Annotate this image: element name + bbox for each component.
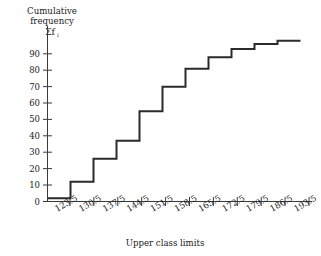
- y-tick-label-50: 50: [29, 114, 40, 124]
- cumulative-frequency-step-line: [48, 41, 301, 198]
- y-axis-title-symbol-subscript: i: [57, 32, 59, 38]
- y-axis-title-symbol: Σf: [45, 27, 55, 37]
- y-axis-title-line-1: Cumulative: [27, 6, 77, 16]
- y-tick-label-10: 10: [29, 180, 40, 190]
- x-tick-label-186-5: 186.5: [268, 193, 294, 214]
- x-tick-label-172-5: 172.5: [220, 193, 246, 214]
- y-tick-label-90: 90: [29, 49, 40, 59]
- y-tick-label-60: 60: [29, 98, 40, 108]
- y-tick-label-20: 20: [29, 164, 40, 174]
- chart-svg: Cumulative frequency Σf i 0 10 20 30 40 …: [0, 0, 321, 256]
- y-tick-label-70: 70: [29, 82, 40, 92]
- y-axis-title-group: Cumulative frequency Σf i: [27, 6, 77, 38]
- y-tick-label-0: 0: [35, 197, 40, 207]
- x-axis-title: Upper class limits: [126, 238, 205, 248]
- x-tick-label-165-5: 165.5: [196, 193, 222, 214]
- x-tick-label-179-5: 179.5: [244, 193, 270, 214]
- y-tick-label-40: 40: [29, 131, 40, 141]
- x-tick-label-123-5: 123.5: [53, 193, 79, 214]
- x-tick-label-130-5: 130.5: [77, 193, 103, 214]
- x-tick-label-137-5: 137.5: [101, 193, 127, 214]
- x-tick-label-151-5: 151.5: [149, 193, 175, 214]
- y-tick-label-30: 30: [29, 147, 40, 157]
- y-tick-label-80: 80: [29, 65, 40, 75]
- cumulative-frequency-chart: Cumulative frequency Σf i 0 10 20 30 40 …: [0, 0, 321, 256]
- x-tick-label-193-5: 193.5: [292, 193, 318, 214]
- x-axis-tick-labels: 123.5 130.5 137.5 144.5 151.5 158.5 165.…: [53, 193, 318, 214]
- y-axis-ticks: 0 10 20 30 40 50 60 70 80 90: [29, 49, 52, 207]
- x-tick-label-144-5: 144.5: [125, 193, 151, 214]
- y-axis-title-line-2: frequency: [30, 16, 74, 26]
- x-tick-label-158-5: 158.5: [173, 193, 199, 214]
